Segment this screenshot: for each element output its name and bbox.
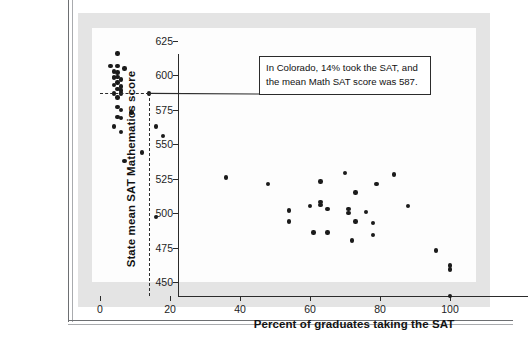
annotation-line-1: In Colorado, 14% took the SAT, and	[266, 61, 424, 75]
page-edge-line-left	[68, 0, 69, 322]
annotation-line-2: the mean Math SAT score was 587.	[266, 75, 424, 89]
x-axis-title: Percent of graduates taking the SAT	[178, 318, 530, 330]
figure-panel: 450475500525550575600625 020406080100 In…	[78, 13, 490, 307]
y-axis-title: State mean SAT Mathematics score	[125, 54, 137, 284]
annotation-callout: In Colorado, 14% took the SAT, and the m…	[259, 56, 431, 95]
page-edge-line-left-2	[72, 0, 73, 322]
